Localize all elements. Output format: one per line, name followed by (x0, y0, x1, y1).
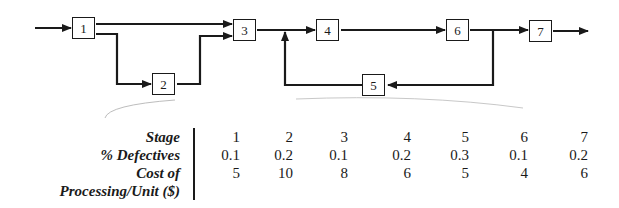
stage-box-4: 4 (316, 19, 339, 41)
stage-box-2: 2 (152, 73, 175, 95)
row-label-cost: Cost of (136, 164, 180, 182)
stage-cell: 6 (488, 128, 528, 146)
stage-box-label: 2 (160, 78, 167, 91)
cost-cell: 10 (253, 164, 293, 182)
stage-cell: 2 (253, 128, 293, 146)
cost-cell: 6 (548, 164, 588, 182)
stage-box-7: 7 (529, 20, 552, 42)
stage-box-label: 3 (241, 24, 248, 37)
stage-box-5: 5 (362, 74, 385, 96)
row-label-stage: Stage (146, 128, 180, 146)
stage-box-label: 7 (537, 25, 544, 38)
defectives-cell: 0.2 (371, 146, 411, 164)
defectives-cell: 0.2 (548, 146, 588, 164)
defectives-cell: 0.1 (308, 146, 348, 164)
cost-cell: 5 (429, 164, 469, 182)
cost-cell: 6 (371, 164, 411, 182)
defectives-cell: 0.3 (429, 146, 469, 164)
stage-box-1: 1 (72, 17, 95, 39)
stage-box-3: 3 (233, 19, 256, 41)
edge-6-5 (388, 30, 493, 85)
stage-cell: 7 (548, 128, 588, 146)
stage-box-label: 6 (454, 24, 461, 37)
stage-cell: 4 (371, 128, 411, 146)
stage-box-label: 5 (370, 79, 377, 92)
table-divider (193, 128, 195, 200)
edge-2-3 (177, 36, 232, 84)
defectives-cell: 0.2 (253, 146, 293, 164)
row-label-defectives: % Defectives (100, 146, 180, 164)
bracket-curve-right (296, 98, 523, 108)
defectives-cell: 0.1 (200, 146, 240, 164)
row-label-cost-cont: Processing/Unit ($) (60, 182, 180, 200)
stage-cell: 3 (308, 128, 348, 146)
cost-cell: 5 (200, 164, 240, 182)
defectives-cell: 0.1 (488, 146, 528, 164)
stage-cell: 1 (200, 128, 240, 146)
stage-box-label: 4 (324, 24, 331, 37)
stage-cell: 5 (429, 128, 469, 146)
cost-cell: 4 (488, 164, 528, 182)
bracket-curve-left (105, 100, 175, 118)
stage-box-label: 1 (80, 22, 87, 35)
stage-box-6: 6 (446, 19, 469, 41)
cost-cell: 8 (308, 164, 348, 182)
edge-1-2 (96, 34, 151, 84)
